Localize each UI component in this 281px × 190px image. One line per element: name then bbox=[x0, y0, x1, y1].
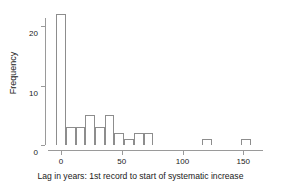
histogram-bar bbox=[134, 133, 144, 145]
histogram-bar bbox=[124, 139, 134, 145]
histogram-figure: 01020 050100150 Frequency Lag in years: … bbox=[0, 0, 281, 190]
y-axis-tick bbox=[41, 145, 45, 146]
x-axis-tick-label: 150 bbox=[228, 157, 258, 166]
histogram-bar bbox=[144, 133, 154, 145]
histogram-bar bbox=[95, 127, 105, 145]
y-axis-tick bbox=[41, 26, 45, 27]
x-axis-tick-label: 0 bbox=[46, 157, 76, 166]
x-axis-tick-label: 100 bbox=[168, 157, 198, 166]
y-axis-title: Frequency bbox=[8, 33, 18, 113]
y-axis-tick-label: 0 bbox=[34, 148, 38, 157]
x-axis-tick bbox=[61, 151, 62, 155]
histogram-bar bbox=[56, 14, 66, 145]
histogram-bar bbox=[241, 139, 251, 145]
histogram-bar bbox=[85, 115, 95, 145]
y-axis-tick-label-wrap: 20 bbox=[0, 22, 38, 40]
y-axis-tick-label: 10 bbox=[29, 89, 38, 98]
y-axis-tick-label-wrap: 10 bbox=[0, 82, 38, 100]
plot-area: 01020 050100150 Frequency Lag in years: … bbox=[0, 0, 281, 190]
x-axis-tick bbox=[243, 151, 244, 155]
histogram-bar bbox=[66, 127, 76, 145]
x-axis-title: Lag in years: 1st record to start of sys… bbox=[0, 171, 281, 181]
histogram-bar bbox=[202, 139, 212, 145]
y-axis-tick-label: 20 bbox=[29, 29, 38, 38]
histogram-bar bbox=[76, 127, 86, 145]
x-axis-tick-label: 50 bbox=[107, 157, 137, 166]
x-axis-tick bbox=[122, 151, 123, 155]
histogram-bar bbox=[114, 133, 124, 145]
y-axis-tick-label-wrap: 0 bbox=[0, 141, 38, 159]
histogram-bar bbox=[105, 115, 115, 145]
y-axis-tick bbox=[41, 86, 45, 87]
x-axis-tick bbox=[183, 151, 184, 155]
